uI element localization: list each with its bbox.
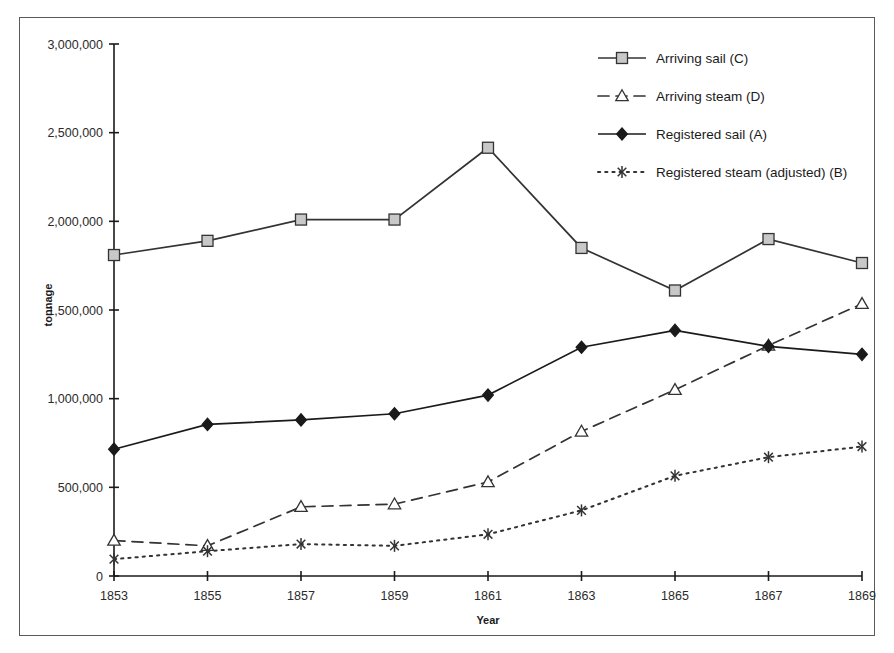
marker-square <box>389 214 400 225</box>
x-axis-tick-label: 1865 <box>661 589 689 603</box>
marker-square <box>296 214 307 225</box>
y-axis-title: tonnage <box>42 284 54 327</box>
y-axis-tick-label: 1,500,000 <box>47 304 103 318</box>
data-point-A-1859 <box>389 408 400 420</box>
x-axis-tick-label: 1861 <box>474 589 502 603</box>
marker-diamond <box>576 341 587 353</box>
x-axis-tick-label: 1869 <box>848 589 876 603</box>
legend: Arriving sail (C)Arriving steam (D)Regis… <box>598 51 847 180</box>
y-axis-tick-label: 3,000,000 <box>47 38 103 52</box>
marker-square <box>483 142 494 153</box>
marker-triangle <box>482 476 494 487</box>
x-axis-tick-label: 1855 <box>194 589 222 603</box>
marker-diamond <box>617 128 628 140</box>
series-B <box>110 441 867 566</box>
data-point-D-1869 <box>856 298 868 309</box>
x-axis-tick-label: 1853 <box>100 589 128 603</box>
legend-marker-C <box>617 53 628 64</box>
data-point-D-1865 <box>669 384 681 395</box>
data-point-D-1853 <box>108 534 120 545</box>
marker-diamond <box>296 414 307 426</box>
figure-container: 0500,0001,000,0001,500,0002,000,0002,500… <box>0 0 894 653</box>
marker-square <box>109 250 120 261</box>
line-chart: 0500,0001,000,0001,500,0002,000,0002,500… <box>0 0 894 653</box>
x-axis-tick-label: 1859 <box>381 589 409 603</box>
x-axis-tick-label: 1857 <box>287 589 315 603</box>
legend-label-B: Registered steam (adjusted) (B) <box>656 165 847 180</box>
data-point-A-1855 <box>202 418 213 430</box>
legend-marker-A <box>617 128 628 140</box>
data-point-A-1853 <box>109 443 120 455</box>
series-A <box>109 324 868 455</box>
y-axis-tick-label: 2,000,000 <box>47 215 103 229</box>
y-axis-tick-label: 500,000 <box>58 481 103 495</box>
data-point-C-1863 <box>576 242 587 253</box>
data-point-C-1869 <box>857 258 868 269</box>
marker-triangle <box>575 425 587 436</box>
data-point-C-1857 <box>296 214 307 225</box>
marker-diamond <box>109 443 120 455</box>
data-point-C-1859 <box>389 214 400 225</box>
marker-diamond <box>670 324 681 336</box>
data-point-A-1869 <box>857 348 868 360</box>
marker-triangle <box>669 384 681 395</box>
marker-square <box>763 234 774 245</box>
legend-label-A: Registered sail (A) <box>656 127 767 142</box>
y-axis-tick-label: 0 <box>96 570 103 584</box>
data-point-C-1861 <box>483 142 494 153</box>
marker-square <box>617 53 628 64</box>
data-point-B-1859 <box>390 540 399 552</box>
marker-square <box>576 242 587 253</box>
data-point-C-1865 <box>670 285 681 296</box>
data-point-A-1857 <box>296 414 307 426</box>
y-axis-tick-label: 1,000,000 <box>47 392 103 406</box>
data-point-C-1855 <box>202 235 213 246</box>
marker-diamond <box>483 389 494 401</box>
marker-square <box>670 285 681 296</box>
marker-diamond <box>857 348 868 360</box>
marker-triangle <box>108 534 120 545</box>
data-point-D-1863 <box>575 425 587 436</box>
series-line-D <box>114 304 862 546</box>
data-point-A-1861 <box>483 389 494 401</box>
marker-triangle <box>856 298 868 309</box>
legend-label-C: Arriving sail (C) <box>656 51 748 66</box>
y-axis-tick-label: 2,500,000 <box>47 126 103 140</box>
marker-square <box>857 258 868 269</box>
x-axis-title: Year <box>476 614 500 626</box>
data-point-C-1867 <box>763 234 774 245</box>
legend-item-B[interactable]: Registered steam (adjusted) (B) <box>598 165 847 180</box>
legend-label-D: Arriving steam (D) <box>656 89 765 104</box>
data-point-B-1861 <box>484 528 493 540</box>
marker-diamond <box>202 418 213 430</box>
x-axis-tick-label: 1863 <box>568 589 596 603</box>
legend-item-D[interactable]: Arriving steam (D) <box>598 89 765 104</box>
data-point-C-1853 <box>109 250 120 261</box>
series-line-B <box>114 447 862 560</box>
x-axis-tick-label: 1867 <box>755 589 783 603</box>
marker-square <box>202 235 213 246</box>
data-point-A-1863 <box>576 341 587 353</box>
data-point-A-1865 <box>670 324 681 336</box>
data-point-B-1865 <box>671 470 680 482</box>
legend-item-C[interactable]: Arriving sail (C) <box>598 51 748 66</box>
data-point-B-1857 <box>297 538 306 550</box>
legend-item-A[interactable]: Registered sail (A) <box>598 127 767 142</box>
data-point-D-1861 <box>482 476 494 487</box>
marker-diamond <box>389 408 400 420</box>
